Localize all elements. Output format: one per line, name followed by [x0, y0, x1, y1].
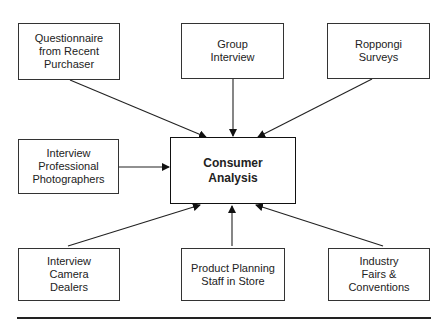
arrow-questionnaire	[70, 80, 206, 137]
diagram-canvas: Questionnaire from Recent Purchaser Grou…	[0, 0, 447, 326]
arrow-fairs	[256, 205, 383, 246]
node-group-interview: Group Interview	[181, 23, 284, 79]
node-camera-dealers: Interview Camera Dealers	[18, 248, 120, 301]
node-planning-staff: Product Planning Staff in Store	[181, 248, 285, 301]
node-photographers: Interview Professional Photographers	[18, 139, 119, 194]
node-consumer-analysis: Consumer Analysis	[170, 137, 296, 204]
arrow-roppongi	[258, 79, 372, 137]
bottom-rule-divider	[17, 317, 431, 319]
node-label: Consumer Analysis	[203, 156, 262, 186]
node-label: Interview Camera Dealers	[47, 255, 91, 294]
node-roppongi: Roppongi Surveys	[327, 23, 430, 79]
node-industry-fairs: Industry Fairs & Conventions	[328, 248, 430, 301]
node-label: Roppongi Surveys	[355, 38, 402, 64]
node-label: Product Planning Staff in Store	[191, 262, 275, 288]
node-label: Questionnaire from Recent Purchaser	[35, 32, 104, 71]
node-label: Group Interview	[210, 38, 254, 64]
node-label: Interview Professional Photographers	[32, 147, 104, 186]
node-questionnaire: Questionnaire from Recent Purchaser	[18, 23, 120, 80]
arrow-dealers	[68, 205, 200, 246]
node-label: Industry Fairs & Conventions	[348, 255, 409, 294]
